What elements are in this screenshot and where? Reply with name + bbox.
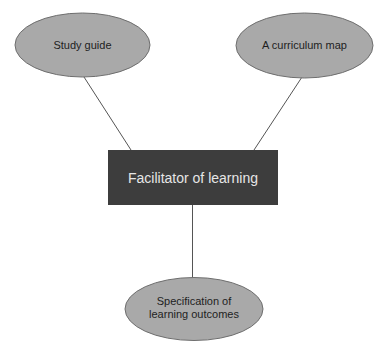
center-node-label: Facilitator of learning — [108, 150, 278, 205]
node-study-guide-label: Study guide — [20, 30, 145, 60]
node-curriculum-map-label: A curriculum map — [241, 30, 368, 60]
connector-study-guide-to-center — [84, 77, 131, 150]
node-learning-outcomes-label: Specification of learning outcomes — [143, 292, 245, 324]
connector-curriculum-map-to-center — [254, 77, 302, 150]
